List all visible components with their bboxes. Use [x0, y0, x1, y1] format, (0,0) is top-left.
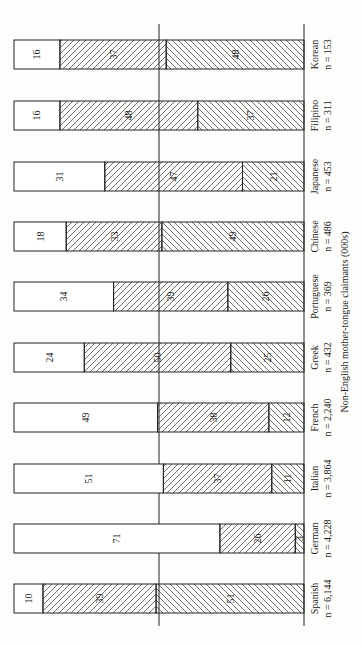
segment-value-label: 10: [23, 594, 34, 604]
segment-value-label: 39: [94, 594, 105, 604]
axis-title: Non-English mother-tongue claimants (000…: [339, 231, 351, 412]
segment-value-label: 51: [225, 594, 236, 604]
bars-group: 1637481648373147211833493439262450254938…: [14, 40, 305, 613]
bar-korean: 163748: [14, 40, 304, 69]
category-label: Chinese: [309, 220, 320, 253]
category-n-label: n = 2,240: [322, 398, 333, 436]
segment-value-label: 37: [245, 111, 256, 121]
segment-value-label: 26: [260, 292, 271, 302]
category-label: German: [309, 522, 320, 554]
segment-value-label: 39: [165, 292, 176, 302]
category-label: Japanese: [309, 158, 320, 194]
bar-italian: 513711: [14, 464, 304, 493]
category-n-label: n = 4,228: [322, 519, 333, 557]
bar-german: 71263: [14, 524, 305, 553]
category-n-label: n = 453: [322, 161, 333, 192]
category-label: Korean: [309, 40, 320, 69]
bar-portuguese: 343926: [14, 282, 304, 311]
segment-value-label: 51: [83, 474, 94, 484]
segment-value-label: 71: [111, 534, 122, 544]
segment-value-label: 21: [268, 172, 279, 182]
category-n-label: n = 6,144: [322, 579, 333, 617]
segment-value-label: 26: [252, 534, 263, 544]
segment-value-label: 48: [230, 50, 241, 60]
category-n-label: n = 311: [322, 100, 333, 130]
segment-value-label: 50: [152, 353, 163, 363]
segment-value-label: 34: [58, 292, 69, 302]
category-label: Greek: [309, 345, 320, 369]
category-labels: Koreann = 153Filipinon = 311Japanesen = …: [309, 39, 333, 617]
segment-value-label: 11: [282, 474, 293, 484]
segment-value-label: 12: [281, 413, 292, 423]
segment-value-label: 49: [227, 232, 238, 242]
category-label: Portuguese: [309, 274, 320, 319]
category-n-label: n = 486: [322, 221, 333, 252]
category-label: French: [309, 404, 320, 432]
category-n-label: n = 153: [322, 39, 333, 70]
bar-japanese: 314721: [14, 162, 304, 191]
bar-chinese: 183349: [14, 222, 304, 251]
bar-spanish: 103951: [14, 584, 304, 613]
segment-value-label: 37: [212, 474, 223, 484]
category-n-label: n = 3,864: [322, 459, 333, 497]
segment-value-label: 24: [44, 353, 55, 363]
category-label: Spanish: [309, 583, 320, 615]
stacked-bar-chart: 1637481648373147211833493439262450254938…: [0, 0, 363, 645]
segment-value-label: 48: [123, 111, 134, 121]
segment-value-label: 38: [208, 413, 219, 423]
category-n-label: n = 369: [322, 281, 333, 312]
segment-value-label: 47: [168, 172, 179, 182]
category-label: Italian: [309, 466, 320, 492]
bar-filipino: 164837: [14, 101, 304, 130]
segment-value-label: 16: [31, 111, 42, 121]
segment-value-label: 33: [109, 232, 120, 242]
segment-value-label: 16: [31, 50, 42, 60]
segment-value-label: 49: [80, 413, 91, 423]
segment-value-label: 25: [262, 353, 273, 363]
category-n-label: n = 432: [322, 342, 333, 373]
segment-value-label: 31: [54, 172, 65, 182]
segment-value-label: 18: [35, 232, 46, 242]
segment-value-label: 37: [108, 50, 119, 60]
bar-french: 493812: [14, 403, 304, 432]
bar-greek: 245025: [14, 343, 304, 372]
category-label: Filipino: [309, 100, 320, 132]
